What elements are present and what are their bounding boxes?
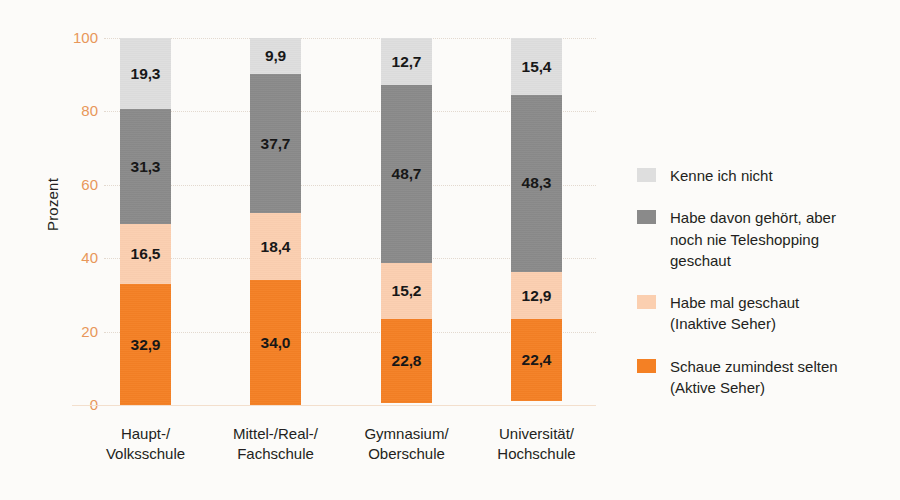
legend-label-line: noch nie Teleshopping xyxy=(670,229,836,250)
bar-segment: 9,9 xyxy=(250,38,301,74)
legend-label-line: Habe davon gehört, aber xyxy=(670,207,836,228)
bar-value-label: 32,9 xyxy=(131,337,161,353)
legend-swatch-icon xyxy=(637,210,656,224)
bar-value-label: 18,4 xyxy=(261,239,291,255)
legend-swatch-icon xyxy=(637,359,656,373)
bar-segment: 18,4 xyxy=(250,213,301,281)
legend-item[interactable]: Habe davon gehört, abernoch nie Teleshop… xyxy=(637,207,895,271)
bar-column: 9,937,718,434,0 xyxy=(250,38,301,405)
bar-segment: 31,3 xyxy=(120,109,171,224)
bar-segment: 12,7 xyxy=(381,38,432,85)
legend-label-line: Kenne ich nicht xyxy=(670,165,773,186)
bar-segment: 22,4 xyxy=(511,319,562,401)
legend-label: Habe mal geschaut(Inaktive Seher) xyxy=(670,292,799,335)
bar-segment: 32,9 xyxy=(120,284,171,405)
bar-value-label: 12,9 xyxy=(522,288,552,304)
bar-segment: 16,5 xyxy=(120,224,171,285)
bar-value-label: 34,0 xyxy=(261,335,291,351)
bar-value-label: 37,7 xyxy=(261,136,291,152)
bar-column: 15,448,312,922,4 xyxy=(511,38,562,405)
bar-segment: 19,3 xyxy=(120,38,171,109)
legend-swatch-icon xyxy=(637,295,656,309)
x-axis-label-line: Hochschule xyxy=(452,444,622,464)
x-axis-label-line: Universität/ xyxy=(452,424,622,444)
bar-value-label: 22,8 xyxy=(392,353,422,369)
bar-value-label: 22,4 xyxy=(522,352,552,368)
bar-segment: 12,9 xyxy=(511,272,562,319)
bar-segment: 15,4 xyxy=(511,38,562,95)
bar-column: 12,748,715,222,8 xyxy=(381,38,432,405)
legend-item[interactable]: Schaue zumindest selten(Aktive Seher) xyxy=(637,356,895,399)
bar-segment: 48,7 xyxy=(381,85,432,264)
legend: Kenne ich nichtHabe davon gehört, aberno… xyxy=(637,165,895,419)
legend-label-line: Habe mal geschaut xyxy=(670,292,799,313)
bar-segment: 34,0 xyxy=(250,280,301,405)
bar-value-label: 15,2 xyxy=(392,283,422,299)
legend-label-line: Schaue zumindest selten xyxy=(670,356,838,377)
legend-label: Schaue zumindest selten(Aktive Seher) xyxy=(670,356,838,399)
bar-segment: 22,8 xyxy=(381,319,432,403)
legend-label: Kenne ich nicht xyxy=(670,165,773,186)
legend-label-line: (Aktive Seher) xyxy=(670,377,838,398)
bar-value-label: 31,3 xyxy=(131,159,161,175)
legend-label-line: (Inaktive Seher) xyxy=(670,313,799,334)
bar-value-label: 48,3 xyxy=(522,175,552,191)
bar-segment: 48,3 xyxy=(511,95,562,272)
legend-label: Habe davon gehört, abernoch nie Teleshop… xyxy=(670,207,836,271)
legend-swatch-icon xyxy=(637,168,656,182)
legend-item[interactable]: Kenne ich nicht xyxy=(637,165,895,186)
bar-value-label: 12,7 xyxy=(392,54,422,70)
stacked-bar-chart: Prozent 020406080100 19,331,316,532,99,9… xyxy=(0,0,900,500)
bar-value-label: 48,7 xyxy=(392,166,422,182)
legend-item[interactable]: Habe mal geschaut(Inaktive Seher) xyxy=(637,292,895,335)
axis-baseline xyxy=(72,405,596,406)
legend-label-line: geschaut xyxy=(670,250,836,271)
bar-value-label: 16,5 xyxy=(131,246,161,262)
bar-segment: 37,7 xyxy=(250,74,301,212)
bar-value-label: 19,3 xyxy=(131,66,161,82)
bar-value-label: 9,9 xyxy=(265,48,286,64)
bar-column: 19,331,316,532,9 xyxy=(120,38,171,405)
x-axis-label: Universität/Hochschule xyxy=(452,424,622,465)
bar-value-label: 15,4 xyxy=(522,59,552,75)
bar-segment: 15,2 xyxy=(381,263,432,319)
